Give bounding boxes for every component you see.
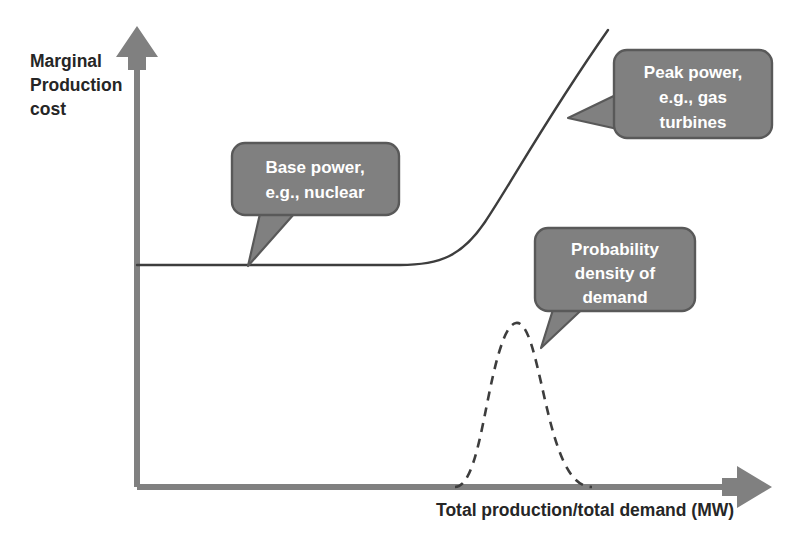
callout-peak-power-line-2: e.g., gas bbox=[659, 88, 727, 107]
up-arrow-icon bbox=[116, 26, 158, 70]
callout-base-power-line-1: Base power, bbox=[265, 158, 364, 177]
callout-peak-power-line-1: Peak power, bbox=[644, 63, 742, 82]
callout-base-power[interactable]: Base power, e.g., nuclear bbox=[232, 143, 399, 266]
callout-probability-density[interactable]: Probability density of demand bbox=[535, 228, 695, 348]
callout-peak-power-line-3: turbines bbox=[659, 113, 726, 132]
y-axis-label-line-1: Marginal bbox=[30, 51, 102, 71]
callout-probability-density-line-1: Probability bbox=[571, 240, 659, 259]
diagram-canvas: Marginal Production cost Total productio… bbox=[0, 0, 804, 548]
callout-peak-power[interactable]: Peak power, e.g., gas turbines bbox=[568, 50, 772, 138]
x-axis-label: Total production/total demand (MW) bbox=[436, 500, 734, 520]
callout-probability-density-line-3: demand bbox=[582, 288, 647, 307]
callout-base-power-line-2: e.g., nuclear bbox=[265, 183, 365, 202]
demand-density-curve-group bbox=[455, 323, 592, 487]
probability-density-curve bbox=[455, 323, 592, 487]
figure-root: Marginal Production cost Total productio… bbox=[0, 0, 804, 548]
y-axis-label-line-2: Production bbox=[30, 75, 122, 95]
callout-probability-density-line-2: density of bbox=[575, 264, 656, 283]
callout-base-power-bubble bbox=[232, 143, 399, 215]
y-axis-label-line-3: cost bbox=[30, 99, 66, 119]
y-axis-label: Marginal Production cost bbox=[30, 51, 122, 119]
